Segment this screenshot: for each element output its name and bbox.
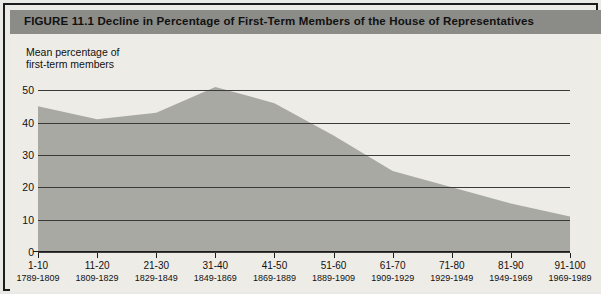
- x-tick-label-congress: 61-70: [371, 260, 414, 272]
- x-axis-ticks: [38, 252, 570, 258]
- y-tick-label: 20: [22, 181, 34, 193]
- y-tick-label: 10: [22, 214, 34, 226]
- x-tick-label: 81-901949-1969: [489, 260, 532, 284]
- x-tick: [38, 253, 39, 258]
- chart-panel: Mean percentage of first-term members 01…: [10, 34, 601, 292]
- gridline-10: [38, 220, 570, 221]
- x-tick: [97, 253, 98, 258]
- x-tick-label-years: 1849-1869: [194, 272, 237, 284]
- x-tick-label-years: 1789-1809: [16, 272, 59, 284]
- x-axis-tick-labels: 1-101789-180911-201809-182921-301829-184…: [10, 260, 601, 290]
- x-tick-label-years: 1949-1969: [489, 272, 532, 284]
- figure-container: FIGURE 11.1 Decline in Percentage of Fir…: [0, 0, 601, 294]
- x-tick-label: 11-201809-1829: [76, 260, 119, 284]
- x-tick-label-congress: 21-30: [135, 260, 178, 272]
- x-tick: [393, 253, 394, 258]
- y-tick-label: 40: [22, 117, 34, 129]
- x-tick: [570, 253, 571, 258]
- x-tick-label-years: 1969-1989: [548, 272, 591, 284]
- x-tick-label: 41-501869-1889: [253, 260, 296, 284]
- y-tick-label: 30: [22, 149, 34, 161]
- x-tick: [215, 253, 216, 258]
- x-tick-label-years: 1869-1889: [253, 272, 296, 284]
- figure-title-bar: FIGURE 11.1 Decline in Percentage of Fir…: [10, 10, 601, 34]
- x-tick-label-congress: 81-90: [489, 260, 532, 272]
- x-tick: [452, 253, 453, 258]
- x-tick: [334, 253, 335, 258]
- y-tick-label: 0: [28, 246, 34, 258]
- x-tick: [274, 253, 275, 258]
- x-tick: [511, 253, 512, 258]
- x-tick-label: 1-101789-1809: [16, 260, 59, 284]
- x-tick-label-years: 1809-1829: [76, 272, 119, 284]
- y-tick-label: 50: [22, 84, 34, 96]
- x-tick-label-congress: 51-60: [312, 260, 355, 272]
- x-tick-label-years: 1929-1949: [430, 272, 473, 284]
- gridline-20: [38, 187, 570, 188]
- gridline-30: [38, 155, 570, 156]
- figure-title: FIGURE 11.1 Decline in Percentage of Fir…: [24, 15, 534, 27]
- y-axis-caption: Mean percentage of first-term members: [26, 46, 119, 70]
- x-tick-label-congress: 1-10: [16, 260, 59, 272]
- x-tick-label: 61-701909-1929: [371, 260, 414, 284]
- x-tick-label-congress: 71-80: [430, 260, 473, 272]
- x-tick-label: 71-801929-1949: [430, 260, 473, 284]
- figure-frame: FIGURE 11.1 Decline in Percentage of Fir…: [3, 3, 598, 291]
- x-tick: [156, 253, 157, 258]
- x-tick-label-congress: 41-50: [253, 260, 296, 272]
- x-tick-label-years: 1889-1909: [312, 272, 355, 284]
- x-tick-label: 31-401849-1869: [194, 260, 237, 284]
- y-axis-tick-labels: 01020304050: [10, 74, 34, 252]
- x-tick-label: 51-601889-1909: [312, 260, 355, 284]
- x-tick-label: 91-1001969-1989: [548, 260, 591, 284]
- x-tick-label-years: 1829-1849: [135, 272, 178, 284]
- x-tick-label-congress: 11-20: [76, 260, 119, 272]
- x-tick-label-years: 1909-1929: [371, 272, 414, 284]
- x-tick-label-congress: 31-40: [194, 260, 237, 272]
- x-tick-label: 21-301829-1849: [135, 260, 178, 284]
- gridline-50: [38, 90, 570, 91]
- area-chart-series: [38, 74, 570, 252]
- gridline-40: [38, 123, 570, 124]
- plot-area: [38, 74, 570, 252]
- x-tick-label-congress: 91-100: [548, 260, 591, 272]
